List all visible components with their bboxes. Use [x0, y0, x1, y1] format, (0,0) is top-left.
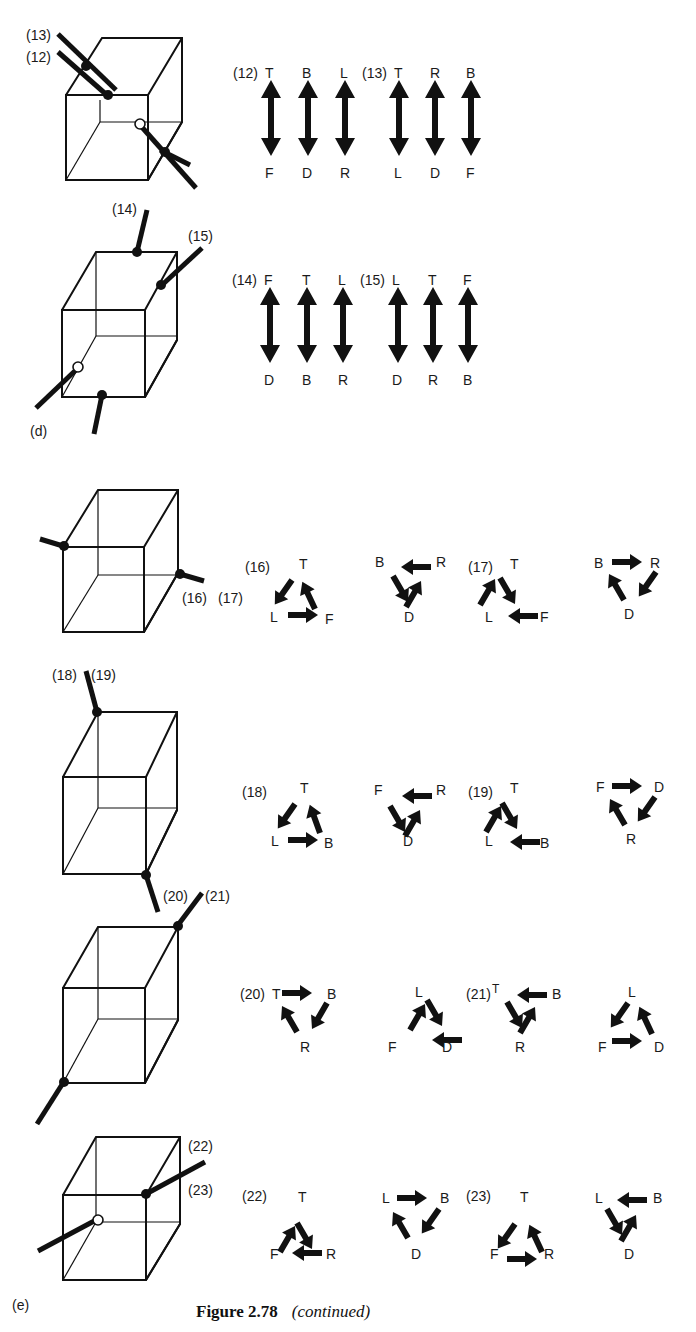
swap-bottom: L: [394, 166, 402, 180]
swap-arrows-14-15: [260, 287, 478, 363]
cycle-node: T: [510, 781, 519, 795]
cycle-node: F: [540, 610, 549, 624]
swap-top: T: [394, 66, 403, 80]
cycle-label-16: (16): [245, 560, 270, 574]
swap-top: R: [430, 66, 440, 80]
cycle-node: B: [375, 555, 384, 569]
cycle-node: L: [382, 1191, 390, 1205]
swap-top: B: [302, 66, 311, 80]
cycle-node: B: [653, 1191, 662, 1205]
cycle-node: L: [415, 985, 423, 999]
swap-label-14: (14): [232, 273, 257, 287]
cycle-node: D: [411, 1247, 421, 1261]
swap-bottom: B: [463, 373, 472, 387]
axis-label-16: (16): [182, 591, 207, 605]
axis-label-14: (14): [112, 202, 137, 216]
axis-label-23: (23): [188, 1183, 213, 1197]
cube-18-19: [63, 671, 177, 912]
swap-top: L: [392, 273, 400, 287]
cycle-node: R: [515, 1040, 525, 1054]
cycle-label-22: (22): [242, 1189, 267, 1203]
caption-continued: (continued): [292, 1302, 370, 1321]
panel-label-e: (e): [12, 1298, 29, 1312]
cycle-node: L: [485, 834, 493, 848]
swap-bottom: D: [302, 166, 312, 180]
swap-bottom: F: [466, 166, 475, 180]
cube-12-13: [58, 34, 196, 188]
swap-arrows-12-13: [261, 80, 481, 156]
swap-top: L: [338, 273, 346, 287]
swap-bottom: R: [338, 373, 348, 387]
cycle-node: F: [598, 1040, 607, 1054]
caption-number: Figure 2.78: [196, 1302, 278, 1321]
swap-top: L: [340, 66, 348, 80]
cycle-node: B: [594, 556, 603, 570]
cycle-node: D: [442, 1040, 452, 1054]
cycle-node: D: [654, 780, 664, 794]
cycle-node: R: [436, 555, 446, 569]
cycle-label-17: (17): [468, 560, 493, 574]
cycle-node: B: [540, 836, 549, 850]
cube-16-17: [40, 490, 204, 632]
swap-bottom: F: [265, 166, 274, 180]
cycle-node: R: [326, 1247, 336, 1261]
cycle-node: T: [300, 781, 309, 795]
cycle-node: F: [325, 612, 334, 626]
swap-bottom: R: [340, 166, 350, 180]
swap-top: F: [264, 273, 273, 287]
cycle-node: L: [485, 610, 493, 624]
swap-label-13: (13): [362, 66, 387, 80]
axis-label-22: (22): [188, 1139, 213, 1153]
cycle-node: D: [404, 610, 414, 624]
swap-top: T: [302, 273, 311, 287]
cycle-node: T: [272, 987, 281, 1001]
axis-label-17: (17): [218, 591, 243, 605]
cube-14-15: [36, 210, 202, 434]
swap-top: F: [463, 273, 472, 287]
cycle-node: F: [388, 1040, 397, 1054]
cycle-node: T: [520, 1190, 529, 1204]
cycle-node: D: [654, 1040, 664, 1054]
cycle-node: L: [271, 834, 279, 848]
cycle-label-19: (19): [468, 785, 493, 799]
cycle-node: F: [490, 1247, 499, 1261]
swap-top: B: [466, 66, 475, 80]
swap-bottom: D: [430, 166, 440, 180]
cycle-node: T: [298, 1190, 307, 1204]
swap-bottom: D: [264, 373, 274, 387]
swap-bottom: D: [392, 373, 402, 387]
cycle-node: B: [440, 1191, 449, 1205]
swap-label-15: (15): [360, 273, 385, 287]
cycle-node: D: [624, 607, 634, 621]
cube-22-23: [38, 1137, 205, 1280]
figure-drawing: [0, 0, 696, 1332]
cycle-label-18: (18): [242, 785, 267, 799]
axis-label-20: (20): [163, 889, 188, 903]
cycle-node: B: [552, 987, 561, 1001]
cycle-node: D: [403, 834, 413, 848]
cycle-node: R: [300, 1040, 310, 1054]
axis-label-12: (12): [26, 50, 51, 64]
swap-label-12: (12): [233, 66, 258, 80]
cycle-node: T: [510, 557, 519, 571]
cycle-node: B: [327, 987, 336, 1001]
cycle-node: R: [544, 1247, 554, 1261]
cycle-node: F: [270, 1247, 279, 1261]
cycle-label-21: (21): [466, 987, 491, 1001]
cycle-node: T: [299, 557, 308, 571]
cycle-node: T: [492, 982, 499, 996]
swap-bottom: B: [302, 373, 311, 387]
figure-caption: Figure 2.78(continued): [196, 1302, 370, 1322]
swap-top: T: [428, 273, 437, 287]
panel-label-d: (d): [30, 424, 47, 438]
swap-top: T: [265, 66, 274, 80]
cycle-label-23: (23): [466, 1189, 491, 1203]
cycle-node: R: [650, 556, 660, 570]
axis-label-19: (19): [91, 668, 116, 682]
axis-label-21: (21): [205, 889, 230, 903]
axis-label-18: (18): [52, 668, 77, 682]
axis-label-13: (13): [26, 28, 51, 42]
cycle-node: L: [270, 610, 278, 624]
cycle-node: L: [628, 985, 636, 999]
axis-label-15: (15): [188, 229, 213, 243]
